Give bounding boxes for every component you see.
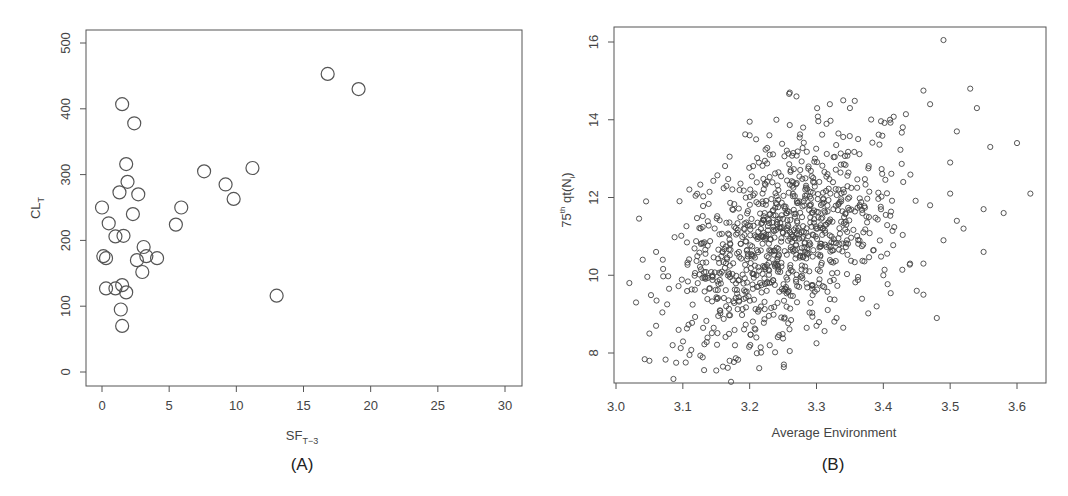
data-point — [666, 274, 671, 279]
data-point — [694, 239, 699, 244]
data-point — [899, 130, 904, 135]
data-point — [748, 187, 753, 192]
data-point — [804, 281, 809, 286]
data-point — [720, 364, 725, 369]
data-point — [800, 145, 805, 150]
data-point — [846, 149, 851, 154]
data-point — [736, 206, 741, 211]
data-point — [726, 331, 731, 336]
data-point — [888, 291, 893, 296]
data-point — [816, 319, 821, 324]
data-point — [712, 226, 717, 231]
data-point — [921, 292, 926, 297]
data-point — [852, 98, 857, 103]
data-point — [722, 163, 727, 168]
data-point — [974, 105, 979, 110]
data-point — [219, 178, 232, 191]
data-point — [928, 102, 933, 107]
data-point — [755, 155, 760, 160]
panel-b-points — [627, 37, 1033, 384]
data-point — [882, 267, 887, 272]
data-point — [683, 360, 688, 365]
data-point — [732, 327, 737, 332]
x-tick-label: 0 — [98, 398, 105, 413]
data-point — [826, 197, 831, 202]
data-point — [941, 238, 946, 243]
data-point — [820, 132, 825, 137]
data-point — [749, 216, 754, 221]
x-tick-label: 3.4 — [874, 399, 892, 414]
data-point — [798, 167, 803, 172]
data-point — [726, 176, 731, 181]
data-point — [647, 358, 652, 363]
y-tick-label: 8 — [586, 349, 601, 356]
data-point — [707, 189, 712, 194]
data-point — [689, 287, 694, 292]
data-point — [841, 98, 846, 103]
y-tick-label: 12 — [586, 190, 601, 204]
data-point — [773, 171, 778, 176]
data-point — [113, 186, 126, 199]
data-point — [808, 300, 813, 305]
data-point — [981, 249, 986, 254]
data-point — [782, 154, 787, 159]
data-point — [126, 208, 139, 221]
data-point — [948, 160, 953, 165]
data-point — [680, 339, 685, 344]
data-point — [881, 273, 886, 278]
data-point — [246, 162, 259, 175]
data-point — [877, 238, 882, 243]
data-point — [829, 271, 834, 276]
data-point — [704, 318, 709, 323]
data-point — [898, 147, 903, 152]
data-point — [679, 233, 684, 238]
data-point — [726, 298, 731, 303]
data-point — [800, 204, 805, 209]
data-point — [754, 335, 759, 340]
data-point — [721, 316, 726, 321]
data-point — [762, 317, 767, 322]
data-point — [742, 221, 747, 226]
data-point — [827, 102, 832, 107]
data-point — [102, 217, 115, 230]
y-tick-label: 400 — [58, 98, 73, 120]
panel-b-x-axis: 3.03.13.23.33.43.53.6 — [607, 383, 1026, 414]
data-point — [794, 272, 799, 277]
data-point — [739, 312, 744, 317]
data-point — [825, 307, 830, 312]
data-point — [672, 235, 677, 240]
data-point — [700, 203, 705, 208]
data-point — [711, 178, 716, 183]
data-point — [741, 281, 746, 286]
data-point — [744, 280, 749, 285]
panel-b-scatter: 3.03.13.23.33.43.53.6 810121416 Average … — [558, 27, 1046, 474]
data-point — [1028, 191, 1033, 196]
data-point — [698, 182, 703, 187]
x-tick-label: 5 — [166, 398, 173, 413]
data-point — [787, 122, 792, 127]
data-point — [954, 218, 959, 223]
data-point — [738, 215, 743, 220]
data-point — [137, 240, 150, 253]
data-point — [859, 296, 864, 301]
data-point — [764, 288, 769, 293]
data-point — [661, 274, 666, 279]
data-point — [878, 254, 883, 259]
data-point — [794, 94, 799, 99]
data-point — [270, 289, 283, 302]
data-point — [706, 201, 711, 206]
y-tick-label: 16 — [586, 35, 601, 49]
data-point — [837, 231, 842, 236]
data-point — [750, 319, 755, 324]
data-point — [715, 331, 720, 336]
data-point — [749, 174, 754, 179]
data-point — [884, 191, 889, 196]
data-point — [781, 193, 786, 198]
data-point — [627, 280, 632, 285]
data-point — [836, 131, 841, 136]
data-point — [908, 172, 913, 177]
y-tick-label: 10 — [586, 268, 601, 282]
data-point — [837, 226, 842, 231]
data-point — [885, 223, 890, 228]
x-tick-label: 10 — [229, 398, 243, 413]
